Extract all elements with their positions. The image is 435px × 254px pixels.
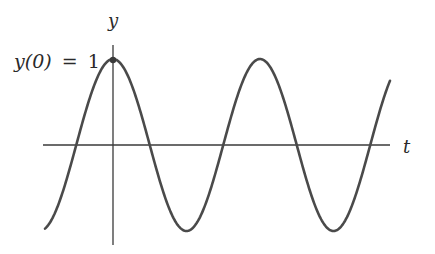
chart: y t y(0) = 1 — [0, 0, 435, 254]
initial-point-marker — [110, 57, 116, 63]
initial-value-rhs: 1 — [88, 50, 100, 72]
y-axis-label: y — [107, 10, 119, 31]
t-axis-label: t — [403, 136, 411, 157]
initial-value-annotation: y(0) = 1 — [13, 50, 100, 72]
initial-value-lhs: y(0) — [13, 50, 52, 72]
initial-value-eq: = — [62, 50, 78, 72]
